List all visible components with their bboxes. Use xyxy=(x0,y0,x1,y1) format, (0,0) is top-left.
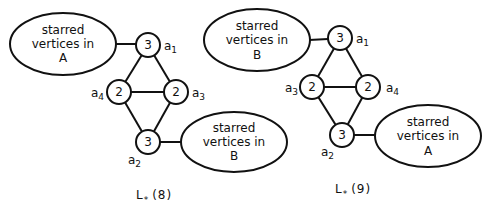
node-weight: 2 xyxy=(308,80,316,94)
node-label: a3 xyxy=(285,81,298,97)
ellipse-text-line3: A xyxy=(424,144,433,158)
diagram-canvas: starred vertices in A starred vertices i… xyxy=(0,0,491,212)
node-weight: 3 xyxy=(144,38,152,52)
node-weight: 3 xyxy=(144,135,152,149)
node-a1: 3 a1 xyxy=(136,33,177,57)
ellipse-text-line3: B xyxy=(230,149,238,163)
ellipse-starred-vertices-A: starred vertices in A xyxy=(10,13,116,75)
ellipse-text-line3: B xyxy=(253,48,261,62)
node-a2: 3 a2 xyxy=(321,123,354,161)
node-label: a4 xyxy=(91,86,104,102)
ellipse-starred-vertices-B: starred vertices in B xyxy=(204,9,310,71)
ellipse-text-line2: vertices in xyxy=(203,135,265,149)
edge-ellipseB-a1 xyxy=(309,39,328,40)
node-weight: 2 xyxy=(364,80,372,94)
ellipse-starred-vertices-B: starred vertices in B xyxy=(181,112,287,172)
node-weight: 2 xyxy=(115,85,123,99)
node-label: a3 xyxy=(192,86,205,102)
node-weight: 3 xyxy=(338,128,346,142)
node-label: a2 xyxy=(128,153,141,169)
node-a4: 2 a4 xyxy=(356,75,399,99)
ellipse-starred-vertices-A: starred vertices in A xyxy=(375,105,481,167)
ellipse-text-line3: A xyxy=(59,51,68,65)
ellipse-text-line1: starred xyxy=(407,115,450,129)
node-a4: 2 a4 xyxy=(91,80,131,104)
node-label: a1 xyxy=(164,39,177,55)
ellipse-text-line1: starred xyxy=(42,23,85,37)
node-a3: 2 a3 xyxy=(285,75,324,99)
ellipse-text-line1: starred xyxy=(213,121,256,135)
node-a2: 3 a2 xyxy=(128,130,160,169)
node-weight: 3 xyxy=(336,31,344,45)
node-label: a4 xyxy=(386,81,399,97)
node-weight: 2 xyxy=(172,85,180,99)
ellipse-text-line2: vertices in xyxy=(226,33,288,47)
ellipse-text-line1: starred xyxy=(236,19,279,33)
caption-L9: L*(9) xyxy=(335,182,371,199)
node-label: a2 xyxy=(321,145,334,161)
node-label: a1 xyxy=(356,32,369,48)
caption-L8: L*(8) xyxy=(136,188,172,205)
ellipse-text-line2: vertices in xyxy=(397,129,459,143)
node-a1: 3 a1 xyxy=(328,26,369,50)
node-a3: 2 a3 xyxy=(164,80,205,104)
ellipse-text-line2: vertices in xyxy=(32,37,94,51)
